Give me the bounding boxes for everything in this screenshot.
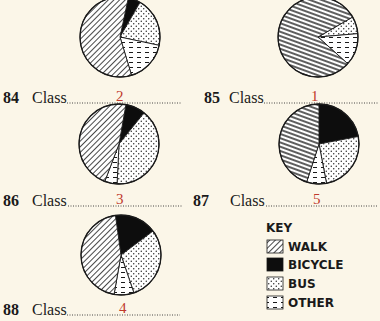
legend-title: KEY <box>266 221 292 235</box>
pie-chart-worksheet: 84 Class 2 85 Class 1 86 Class 3 87 Clas… <box>0 0 380 321</box>
legend: KEY WALK BICYCLE BUS OTHER <box>266 221 343 310</box>
class-label: Class <box>32 89 67 106</box>
answer-text: 1 <box>311 88 319 104</box>
question-number: 85 <box>204 89 220 106</box>
class-label: Class <box>230 192 265 209</box>
legend-label: OTHER <box>288 296 334 310</box>
legend-label: WALK <box>288 240 328 254</box>
pie-chart-87 <box>279 104 359 184</box>
legend-item-other: OTHER <box>267 296 334 310</box>
question-86-label: 86 Class 3 <box>3 191 183 209</box>
walk-swatch <box>267 240 283 253</box>
legend-item-bicycle: BICYCLE <box>267 258 343 272</box>
question-number: 84 <box>3 89 19 106</box>
answer-text: 4 <box>119 300 127 316</box>
legend-label: BICYCLE <box>288 258 343 272</box>
question-85-label: 85 Class 1 <box>204 88 378 106</box>
legend-item-walk: WALK <box>267 240 328 254</box>
legend-label: BUS <box>288 277 316 291</box>
question-number: 87 <box>193 192 209 209</box>
pie-chart-84 <box>80 0 160 77</box>
bicycle-swatch <box>267 258 283 271</box>
question-84-label: 84 Class 2 <box>3 88 182 106</box>
class-label: Class <box>32 301 67 318</box>
bus-swatch <box>267 277 283 290</box>
other-swatch <box>267 296 283 309</box>
class-label: Class <box>229 89 264 106</box>
legend-item-bus: BUS <box>267 277 316 291</box>
question-87-label: 87 Class 5 <box>193 191 378 209</box>
answer-text: 2 <box>116 88 124 104</box>
question-88-label: 88 Class 4 <box>3 300 180 318</box>
question-number: 86 <box>3 192 19 209</box>
pie-chart-85 <box>278 0 358 77</box>
class-label: Class <box>32 192 67 209</box>
pie-chart-86 <box>79 104 159 184</box>
answer-text: 5 <box>313 191 321 207</box>
answer-text: 3 <box>116 191 124 207</box>
question-number: 88 <box>3 301 19 318</box>
pie-slice-walk <box>81 215 121 294</box>
pie-chart-88 <box>81 215 161 295</box>
